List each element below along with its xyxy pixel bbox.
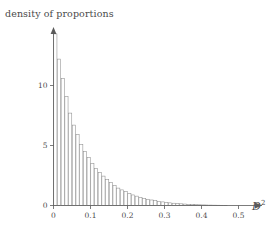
histogram-bar [54,34,57,206]
histogram-bar [150,200,153,206]
x-axis-arrowhead [255,203,262,209]
histogram-bar [76,135,79,206]
y-axis-arrowhead [51,27,57,34]
histogram-bar [102,176,105,205]
histogram-bar [106,180,109,206]
histogram-bar [143,198,146,205]
x-axis-ticks [54,206,239,210]
histogram-bar [161,202,164,206]
histogram-bar [135,196,138,205]
histogram-bar [98,173,101,206]
histogram-bar [120,190,123,206]
x-axis-tick-label: 0.1 [77,211,105,220]
histogram-figure: density of proportions D2 00.10.20.30.40… [0,0,279,234]
x-axis-tick-label: 0.4 [188,211,216,220]
y-axis-tick-label: 5 [20,141,48,150]
histogram-bar [157,201,160,205]
histogram-bar [83,152,86,206]
histogram-bar [165,202,168,205]
histogram-bar [124,192,127,206]
histogram-bar [128,194,131,206]
x-axis-tick-label: 0.2 [114,211,142,220]
histogram-bar [87,158,90,206]
histogram-bar [131,195,134,206]
plot-area [0,0,279,234]
histogram-bar [146,199,149,205]
y-axis-ticks [50,86,54,206]
histogram-bar [57,59,60,205]
histogram-bar [154,201,157,206]
histogram-bar [80,144,83,205]
histogram-bar [109,183,112,206]
histogram-bar [113,186,116,206]
histogram-bar [94,168,97,205]
x-axis-tick-label: 0.3 [151,211,179,220]
histogram-bar [69,113,72,205]
histogram-bar [91,164,94,206]
histogram-bars [54,34,227,206]
histogram-bar [65,96,68,205]
x-axis-tick-label: 0.5 [225,211,253,220]
histogram-bar [72,125,75,205]
histogram-bar [139,197,142,205]
x-axis-tick-label: 0 [40,211,68,220]
histogram-bar [117,188,120,205]
y-axis-tick-label: 0 [20,201,48,210]
histogram-bar [61,78,64,205]
y-axis-tick-label: 10 [20,81,48,90]
